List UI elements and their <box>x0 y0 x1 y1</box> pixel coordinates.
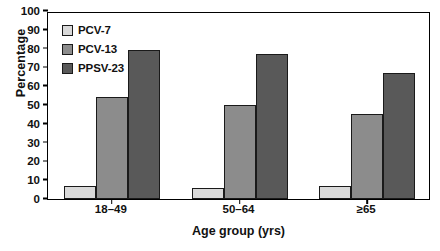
legend-item: PCV-7 <box>62 21 124 39</box>
y-tick-label: 40 <box>27 115 40 131</box>
bar <box>128 50 160 199</box>
y-tick-mark <box>43 10 48 12</box>
y-tick-label: 50 <box>27 97 40 113</box>
y-tick-label: 60 <box>27 78 40 94</box>
y-tick-label: 100 <box>21 3 40 19</box>
bar <box>64 186 96 199</box>
bar <box>192 188 224 199</box>
bar <box>319 186 351 199</box>
bar <box>256 54 288 199</box>
x-tick-label: 50–64 <box>223 203 255 215</box>
y-tick-label: 80 <box>27 40 40 56</box>
legend-label: PCV-13 <box>78 43 117 55</box>
bar <box>96 97 128 199</box>
x-tick-label: ≥65 <box>357 203 376 215</box>
bar <box>351 114 383 199</box>
legend-swatch-icon <box>62 25 73 36</box>
x-axis-title: Age group (yrs) <box>47 224 430 238</box>
bar-chart: Percentage 0102030405060708090100 PCV-7P… <box>0 0 440 251</box>
legend-item: PCV-13 <box>62 40 124 58</box>
x-tick-label: 18–49 <box>95 203 127 215</box>
legend-item: PPSV-23 <box>62 59 124 77</box>
y-tick-label: 70 <box>27 59 40 75</box>
legend-swatch-icon <box>62 44 73 55</box>
y-tick-label: 20 <box>27 153 40 169</box>
legend-label: PCV-7 <box>78 24 111 36</box>
bar <box>224 105 256 199</box>
legend-label: PPSV-23 <box>78 62 124 74</box>
bar <box>383 73 415 199</box>
y-axis-title: Percentage <box>14 0 28 128</box>
y-tick-label: 10 <box>27 172 40 188</box>
y-tick-label: 0 <box>34 191 40 207</box>
plot-area: 0102030405060708090100 PCV-7PCV-13PPSV-2… <box>47 12 430 200</box>
legend-swatch-icon <box>62 63 73 74</box>
chart-legend: PCV-7PCV-13PPSV-23 <box>62 21 124 78</box>
y-tick-label: 90 <box>27 21 40 37</box>
y-tick-label: 30 <box>27 134 40 150</box>
